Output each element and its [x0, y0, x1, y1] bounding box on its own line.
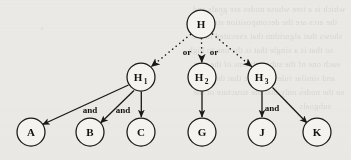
- edge-label-and-j: and: [265, 103, 280, 113]
- and-or-tree-figure: which is a tree whose nodes are goals an…: [0, 0, 351, 160]
- edge-group-or: [152, 34, 252, 67]
- node-h2[interactable]: H 2: [188, 63, 216, 91]
- node-label-h: H: [197, 18, 206, 30]
- node-label-b: B: [86, 126, 94, 138]
- node-label-c: C: [137, 126, 145, 138]
- node-label-g: G: [198, 126, 207, 138]
- edge-label-or-left: or: [183, 47, 192, 57]
- node-label-a: A: [27, 126, 35, 138]
- node-h1[interactable]: H 1: [127, 63, 155, 91]
- node-b[interactable]: B: [76, 118, 104, 146]
- edge-label-and-a: and: [83, 105, 98, 115]
- node-subscript-h2: 2: [205, 77, 209, 86]
- edge-h-to-h3: [213, 34, 252, 67]
- node-subscript-h3: 3: [265, 77, 269, 86]
- node-label-h3: H: [255, 71, 264, 83]
- node-a[interactable]: A: [17, 118, 45, 146]
- node-k[interactable]: K: [303, 118, 331, 146]
- edge-label-and-b: and: [116, 105, 131, 115]
- node-label-h1: H: [134, 71, 143, 83]
- node-label-k: K: [313, 126, 322, 138]
- node-h3[interactable]: H 3: [248, 63, 276, 91]
- node-subscript-h1: 1: [144, 77, 148, 86]
- node-j[interactable]: J: [248, 118, 276, 146]
- edge-label-or-right: or: [210, 47, 219, 57]
- node-h[interactable]: H: [187, 10, 215, 38]
- node-g[interactable]: G: [188, 118, 216, 146]
- node-label-j: J: [259, 126, 265, 138]
- node-label-h2: H: [195, 71, 204, 83]
- diagram-canvas: or or and and and H H 1 H 2 H 3 A: [0, 0, 351, 160]
- node-c[interactable]: C: [127, 118, 155, 146]
